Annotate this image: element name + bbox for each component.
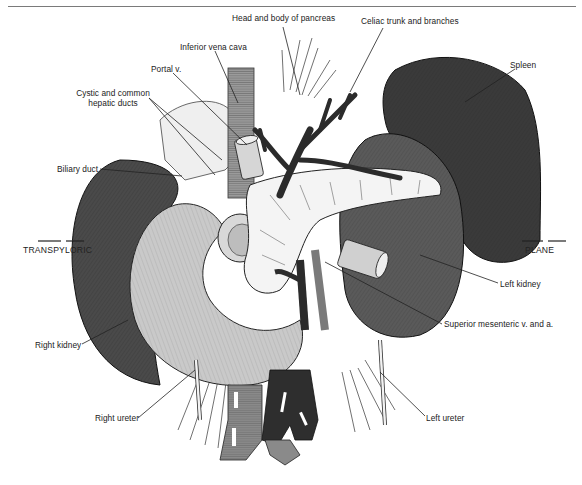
label-cystic-line2: hepatic ducts bbox=[76, 98, 150, 108]
anatomy-illustration bbox=[0, 0, 582, 485]
label-superior-mesenteric: Superior mesenteric v. and a. bbox=[444, 319, 553, 329]
label-spleen: Spleen bbox=[510, 60, 536, 70]
label-celiac-trunk: Celiac trunk and branches bbox=[361, 16, 459, 26]
label-left-ureter: Left ureter bbox=[426, 413, 464, 423]
label-right-kidney: Right kidney bbox=[35, 340, 81, 350]
inferior-vena-cava-lower bbox=[220, 385, 262, 460]
label-head-body-pancreas: Head and body of pancreas bbox=[232, 13, 335, 23]
label-right-ureter: Right ureter bbox=[95, 413, 139, 423]
label-cystic-hepatic-ducts: Cystic and common hepatic ducts bbox=[76, 88, 150, 108]
label-inferior-vena-cava: Inferior vena cava bbox=[180, 42, 247, 52]
aorta-lower bbox=[262, 370, 318, 465]
label-transpyloric: TRANSPYLORIC bbox=[23, 245, 92, 255]
label-left-kidney: Left kidney bbox=[500, 279, 541, 289]
label-portal-vein: Portal v. bbox=[151, 64, 181, 74]
label-cystic-line1: Cystic and common bbox=[76, 88, 150, 98]
label-plane: PLANE bbox=[525, 245, 554, 255]
label-biliary-duct: Biliary duct bbox=[57, 164, 98, 174]
